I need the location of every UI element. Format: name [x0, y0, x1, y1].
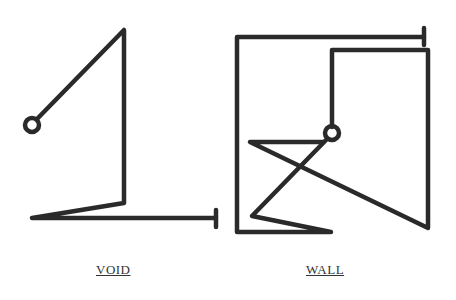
wall-glyph [237, 28, 428, 232]
diagram-canvas [0, 0, 456, 300]
void-glyph [25, 30, 216, 227]
void-label: VOID [96, 262, 131, 278]
wall-label: WALL [306, 262, 344, 278]
